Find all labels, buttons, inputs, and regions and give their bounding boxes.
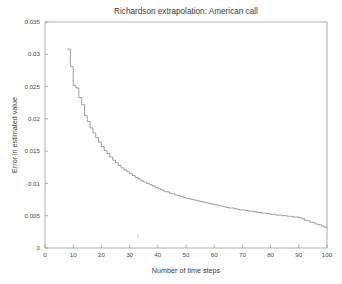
y-tick-label: 0.015 [25,147,41,154]
x-axis-tick-labels: 0102030405060708090100 [43,251,332,258]
y-axis-tick-labels: 00.0050.010.0150.020.0250.030.035 [25,18,41,251]
y-tick-label: 0.025 [25,83,41,90]
y-tick-label: 0.035 [25,18,41,25]
y-axis-tickmarks [45,22,48,248]
chart-figure: 0102030405060708090100 00.0050.010.0150.… [0,0,342,284]
y-tick-label: 0 [37,244,41,251]
x-tick-label: 70 [239,251,246,258]
x-tick-label: 10 [70,251,77,258]
chart-title: Richardson extrapolation: American call [114,7,258,16]
x-tick-label: 0 [43,251,47,258]
x-axis-tickmarks [45,245,327,248]
x-tick-label: 80 [267,251,274,258]
y-tick-label: 0.02 [28,115,41,122]
x-tick-label: 90 [295,251,302,258]
x-tick-label: 40 [154,251,161,258]
x-tick-label: 60 [211,251,218,258]
y-tick-label: 0.01 [28,180,41,187]
y-tick-label: 0.005 [25,212,41,219]
x-tick-label: 50 [183,251,190,258]
x-axis-label: Number of time steps [152,266,221,275]
richardson-extrapolation-line-chart: 0102030405060708090100 00.0050.010.0150.… [0,0,342,284]
x-tick-label: 20 [98,251,105,258]
error-curve [68,49,327,227]
y-tick-label: 0.03 [28,50,41,57]
x-tick-label: 30 [126,251,133,258]
x-tick-label: 100 [322,251,333,258]
axes-frame [45,22,327,248]
y-axis-label: Error in estimated value [10,97,19,173]
